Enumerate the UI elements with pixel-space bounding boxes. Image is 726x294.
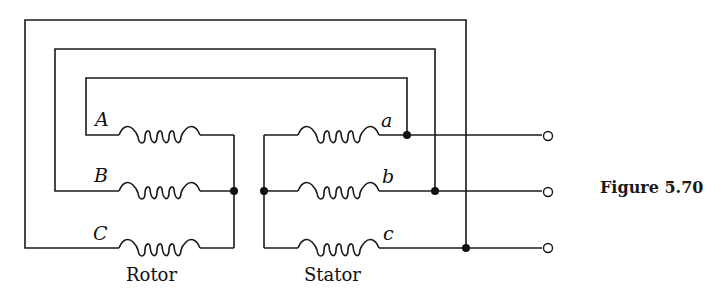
label-rotor-b: B xyxy=(93,164,108,186)
figure-caption: Figure 5.70 xyxy=(600,178,703,197)
terminal-b xyxy=(544,188,553,197)
rotor-neutral-node xyxy=(230,187,238,195)
wire-b-loop xyxy=(55,49,435,191)
junction-b xyxy=(431,187,439,195)
stator-coil-b xyxy=(264,183,542,199)
junction-a xyxy=(403,131,411,139)
rotor-coil-c xyxy=(119,240,234,256)
label-stator-c: c xyxy=(383,222,394,244)
wire-c-loop xyxy=(25,20,466,248)
label-rotor-c: C xyxy=(93,222,108,244)
stator-coil-c xyxy=(264,240,542,256)
terminal-a xyxy=(544,132,553,141)
rotor-stator-circuit-diagram: A B C a b c Rotor Stator xyxy=(0,0,726,294)
stator-label: Stator xyxy=(304,264,361,285)
label-stator-a: a xyxy=(381,109,392,131)
stator-coil-a xyxy=(264,127,542,143)
label-stator-b: b xyxy=(382,165,394,187)
terminal-c xyxy=(544,244,553,253)
junction-c xyxy=(462,244,470,252)
rotor-coil-b xyxy=(119,183,234,199)
rotor-label: Rotor xyxy=(126,264,177,285)
wire-a-loop xyxy=(86,78,407,135)
label-rotor-a: A xyxy=(93,108,109,130)
rotor-coil-a xyxy=(119,127,234,143)
